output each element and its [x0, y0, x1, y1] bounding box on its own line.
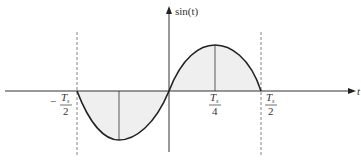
y-axis-arrow-icon: [166, 6, 172, 14]
svg-text:s: s: [272, 98, 275, 104]
svg-text:4: 4: [212, 105, 218, 117]
tick-label-half: T s 2: [265, 91, 277, 117]
svg-text:2: 2: [268, 105, 274, 117]
svg-text:s: s: [67, 98, 70, 104]
x-axis-label: t: [357, 85, 361, 97]
x-axis-arrow-icon: [348, 88, 356, 94]
tick-label-quarter: T s 4: [209, 91, 221, 117]
svg-text:s: s: [216, 98, 219, 104]
tick-label-neg-half: − T s 2: [50, 91, 72, 117]
svg-text:−: −: [50, 95, 56, 107]
y-axis-label: sin(t): [175, 5, 199, 18]
sine-diagram: sin(t) t − T s 2 T s 4 T s 2: [0, 0, 361, 160]
svg-text:2: 2: [63, 105, 69, 117]
